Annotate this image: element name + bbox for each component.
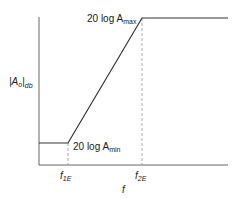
- x-axis-label: f: [122, 184, 126, 195]
- min-level-label: 20 log Amin: [73, 141, 121, 153]
- y-axis-label: |Ao|db: [9, 76, 33, 89]
- f1e-tick-label: f1E: [60, 170, 72, 182]
- f2e-tick-label: f2E: [135, 170, 147, 182]
- gain-response-curve: [39, 18, 228, 143]
- max-level-label: 20 log Amax: [87, 13, 137, 25]
- bode-plot: |Ao|db 20 log Amax 20 log Amin f1E f2E f: [0, 0, 239, 198]
